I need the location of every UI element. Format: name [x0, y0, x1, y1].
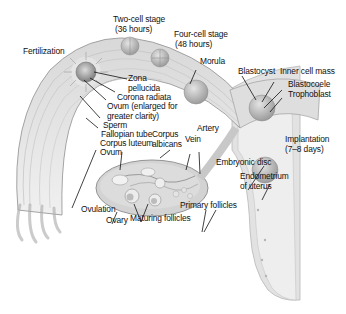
fertilization-diagram: Two-cell stage (36 hours) Four-cell stag… [0, 0, 346, 314]
label-vein: Vein [185, 135, 201, 145]
morula [184, 80, 208, 104]
label-endometrium-2: of uterus [240, 182, 272, 192]
label-fertilization: Fertilization [23, 47, 65, 57]
label-maturing-follicles: Maturing follicles [130, 214, 191, 224]
label-primary-follicles: Primary follicles [180, 201, 237, 211]
ovarian-ligament [200, 128, 236, 178]
label-artery: Artery [197, 124, 219, 134]
label-corpus-albicans-2: albicans [152, 140, 182, 150]
label-inner-cell-mass: Inner cell mass [280, 67, 335, 77]
label-morula: Morula [200, 57, 225, 67]
label-ovulation: Ovulation [81, 205, 115, 215]
label-blastocyst: Blastocyst [238, 67, 275, 77]
label-embryonic-disc: Embryonic disc [216, 158, 271, 168]
label-two-cell-time: (36 hours) [115, 25, 152, 35]
blastocyst [249, 95, 275, 121]
label-trophoblast: Trophoblast [288, 90, 331, 100]
label-implantation-time: (7–8 days) [285, 145, 324, 155]
label-ovary: Ovary [106, 216, 128, 226]
label-ovum: Ovum [100, 148, 122, 158]
label-four-cell-time: (48 hours) [175, 40, 212, 50]
